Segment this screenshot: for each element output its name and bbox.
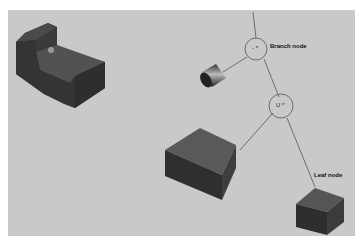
union-node-symbol: U * [276,102,284,108]
small-box-shape [296,188,344,235]
large-box-shape [165,128,236,200]
tree-edges [223,12,315,187]
tree-diagram [0,0,362,241]
leaf-node-label: Leaf node [314,172,342,178]
branch-node-symbol: - * [252,45,258,51]
cylinder-shape [198,64,226,89]
result-part-shape [16,23,105,108]
branch-node-label: Branch node [270,43,307,49]
